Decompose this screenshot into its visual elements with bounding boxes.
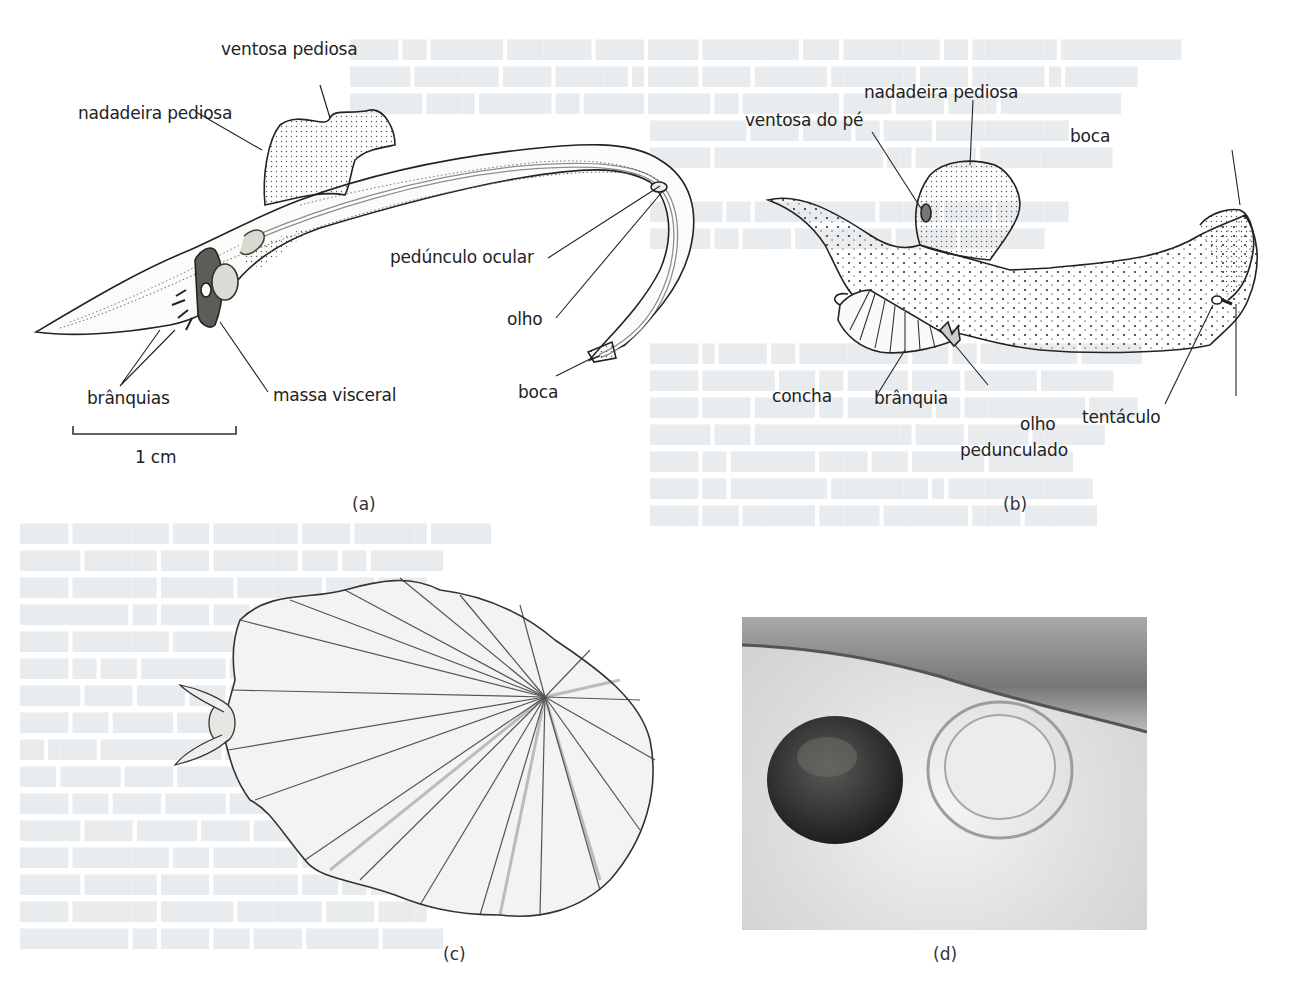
label-b-branquia: brânquia (874, 388, 948, 408)
label-a-pedunculo-ocular: pedúnculo ocular (390, 247, 534, 267)
scale-bar-label: 1 cm (135, 447, 176, 467)
label-b-ventosa-do-pe: ventosa do pé (745, 110, 863, 130)
label-b-nadadeira-pediosa: nadadeira pediosa (864, 82, 1018, 102)
caption-a: (a) (352, 494, 376, 514)
caption-d: (d) (933, 944, 957, 964)
caption-c: (c) (443, 944, 466, 964)
panel-b-drawing (768, 100, 1257, 404)
label-a-branquias: brânquias (87, 388, 170, 408)
label-b-concha: concha (772, 386, 832, 406)
label-a-boca: boca (518, 382, 558, 402)
label-b-pedunculado: pedunculado (960, 440, 1068, 460)
panel-c-drawing (175, 578, 655, 916)
panel-a-drawing (36, 85, 694, 434)
label-a-ventosa-pediosa: ventosa pediosa (221, 39, 357, 59)
label-b-boca: boca (1070, 126, 1110, 146)
panel-d-photo (742, 617, 1147, 930)
label-a-olho: olho (507, 309, 543, 329)
label-a-massa-visceral: massa visceral (273, 385, 396, 405)
label-a-nadadeira-pediosa: nadadeira pediosa (78, 103, 232, 123)
label-b-olho: olho (1020, 414, 1056, 434)
caption-b: (b) (1003, 494, 1027, 514)
label-b-tentaculo: tentáculo (1082, 407, 1160, 427)
